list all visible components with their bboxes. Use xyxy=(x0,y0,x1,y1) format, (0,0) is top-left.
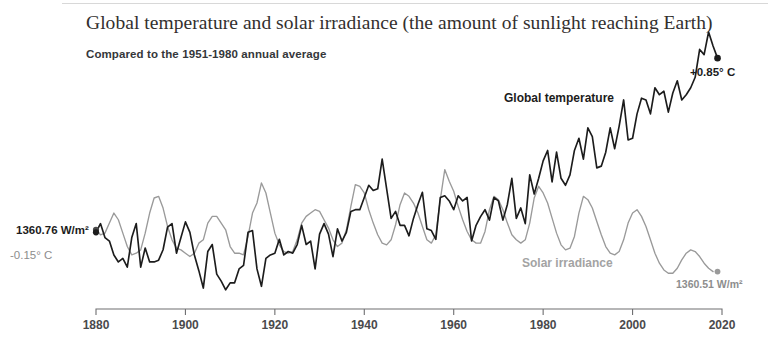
temperature-start-marker xyxy=(93,229,99,235)
x-tick-label-1960: 1960 xyxy=(440,318,467,332)
solar-end-value-label: 1360.51 W/m² xyxy=(676,278,743,290)
x-tick-label-2020: 2020 xyxy=(709,318,736,332)
temperature-end-marker xyxy=(714,55,721,62)
series-label-global-temperature: Global temperature xyxy=(504,91,614,105)
solar-start-value-label: 1360.76 W/m² xyxy=(16,224,89,236)
solar-end-marker xyxy=(715,269,721,275)
x-tick-label-2000: 2000 xyxy=(619,318,646,332)
chart-plot-area xyxy=(0,0,772,360)
solar-irradiance-line xyxy=(96,170,713,274)
x-tick-label-1920: 1920 xyxy=(261,318,288,332)
x-tick-label-1900: 1900 xyxy=(172,318,199,332)
chart-figure: Global temperature and solar irradiance … xyxy=(0,0,772,360)
x-tick-label-1940: 1940 xyxy=(351,318,378,332)
x-tick-label-1980: 1980 xyxy=(530,318,557,332)
temperature-end-value-label: +0.85° C xyxy=(690,66,735,78)
x-axis xyxy=(96,309,722,315)
temperature-start-value-label: -0.15° C xyxy=(10,249,52,261)
series-label-solar-irradiance: Solar irradiance xyxy=(522,256,613,270)
global-temperature-line xyxy=(96,32,718,290)
x-tick-label-1880: 1880 xyxy=(83,318,110,332)
